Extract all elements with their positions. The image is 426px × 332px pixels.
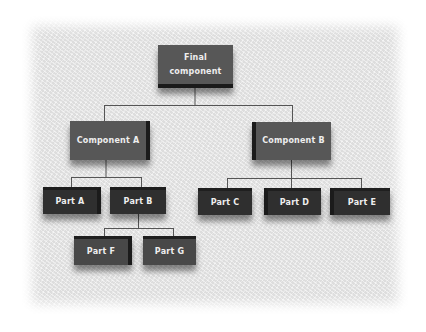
- node-final-component: Final component: [158, 45, 233, 88]
- node-label: Part G: [155, 245, 184, 259]
- node-label: Part C: [211, 196, 240, 210]
- node-label: Part E: [348, 196, 376, 210]
- node-label: Part F: [87, 245, 115, 259]
- node-label: Component B: [262, 134, 325, 148]
- node-part-c: Part C: [198, 188, 252, 215]
- node-part-a: Part A: [43, 187, 101, 214]
- node-label: Part B: [124, 195, 153, 209]
- node-label-line-2: component: [169, 65, 221, 79]
- node-label: Part A: [56, 195, 85, 209]
- node-part-f: Part F: [74, 236, 132, 265]
- node-label: Component A: [77, 134, 140, 148]
- node-part-g: Part G: [143, 236, 196, 265]
- node-label-line-1: Final: [169, 51, 221, 65]
- node-part-e: Part E: [330, 188, 390, 215]
- node-part-d: Part D: [264, 188, 321, 215]
- node-part-b: Part B: [110, 187, 166, 214]
- node-label: Part D: [280, 196, 309, 210]
- node-component-a: Component A: [70, 121, 150, 160]
- node-component-b: Component B: [252, 122, 331, 160]
